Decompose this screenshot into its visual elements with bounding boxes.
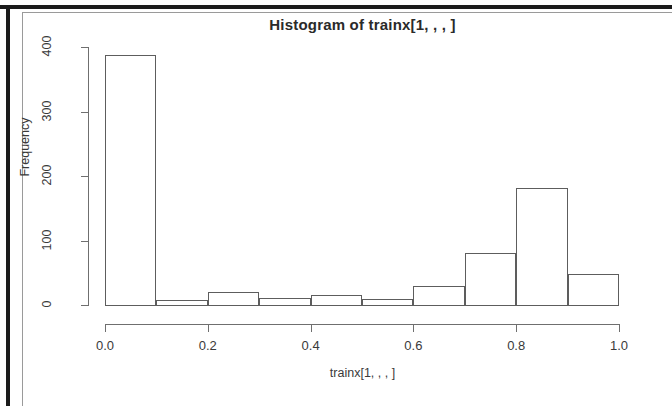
- x-axis-tick: [311, 324, 312, 332]
- y-axis-label: Frequency: [18, 87, 32, 207]
- x-axis-tick-label: 0.4: [281, 338, 341, 353]
- x-axis-tick: [516, 324, 517, 332]
- x-axis-tick-label: 0.2: [178, 338, 238, 353]
- histogram-bar: [516, 188, 567, 306]
- chart-title: Histogram of trainx[1, , , ]: [106, 16, 619, 33]
- histogram-bar: [413, 286, 464, 306]
- x-axis-tick: [105, 324, 106, 332]
- histogram-bar: [259, 298, 310, 306]
- y-axis-tick: [81, 241, 89, 242]
- x-axis-label: trainx[1, , , ]: [106, 366, 619, 380]
- y-axis-tick: [81, 305, 89, 306]
- x-axis-tick: [208, 324, 209, 332]
- histogram-bar: [465, 253, 516, 306]
- histogram-bar: [362, 299, 413, 306]
- plot-area: Histogram of trainx[1, , , ] Frequency 0…: [0, 0, 672, 406]
- histogram-bar: [105, 55, 156, 306]
- x-axis-tick-label: 0.6: [383, 338, 443, 353]
- y-axis-tick: [81, 176, 89, 177]
- histogram-bar: [156, 300, 207, 306]
- x-axis-tick-label: 1.0: [589, 338, 649, 353]
- x-axis-tick: [413, 324, 414, 332]
- histogram-bar: [311, 295, 362, 306]
- x-axis-tick: [619, 324, 620, 332]
- y-axis-tick-label: 200: [40, 145, 54, 205]
- histogram-screenshot: Histogram of trainx[1, , , ] Frequency 0…: [0, 0, 672, 406]
- histogram-bar: [208, 292, 259, 306]
- y-axis-tick-label: 300: [40, 81, 54, 141]
- y-axis-tick: [81, 112, 89, 113]
- x-axis-tick-label: 0.0: [75, 338, 135, 353]
- x-axis-tick-label: 0.8: [486, 338, 546, 353]
- y-axis-tick-label: 100: [40, 210, 54, 270]
- y-axis-tick: [81, 47, 89, 48]
- x-axis-line: [105, 324, 619, 325]
- histogram-bar: [568, 274, 619, 306]
- y-axis-tick-label: 0: [40, 274, 54, 334]
- y-axis-tick-label: 400: [40, 16, 54, 76]
